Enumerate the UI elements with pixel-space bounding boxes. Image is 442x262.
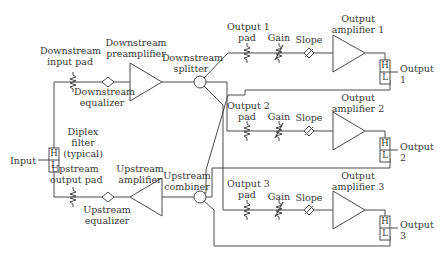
output3-label-line2: 3 <box>400 230 440 241</box>
output3-pad-label-line2: pad <box>227 189 267 200</box>
diplex-label-line1: Diplex <box>63 126 103 137</box>
output1-diplex-high-label: H <box>380 60 390 71</box>
output1-gain-label: Gain <box>264 32 294 43</box>
output1-label-line1: Output <box>400 63 440 74</box>
output-amplifier-1-label-line2: amplifier 1 <box>330 24 386 35</box>
upstream-amplifier-label-line2: amplifier <box>115 174 165 185</box>
output-amplifier-2-icon <box>333 112 365 150</box>
downstream-preamplifier-label-line1: Downstream <box>104 37 168 48</box>
output3-diplex-low-label: L <box>380 228 390 239</box>
upstream-equalizer-icon <box>102 192 114 202</box>
output2-pad-label-line2: pad <box>227 111 267 122</box>
downstream-equalizer-label-line1: Downstream <box>74 86 130 97</box>
downstream-input-pad-label-line2: input pad <box>40 56 100 67</box>
upstream-equalizer-label-line2: equalizer <box>82 215 132 226</box>
output2-diplex-high-label: H <box>380 138 390 149</box>
downstream-equalizer-label-line2: equalizer <box>74 97 130 108</box>
output3-gain-label: Gain <box>264 191 294 202</box>
output1-pad-label-line2: pad <box>227 32 267 43</box>
output3-pad-label-line1: Output 3 <box>227 178 267 189</box>
diplex-label-line3: (typical) <box>60 148 106 159</box>
diplex-label-line2: filter <box>63 137 103 148</box>
output3-label-line1: Output <box>400 219 440 230</box>
upstream-output-pad-label-line2: output pad <box>50 174 100 185</box>
downstream-splitter-label-line1: Downstream <box>162 52 220 63</box>
output2-diplex-low-label: L <box>380 150 390 161</box>
output3-slope-label: Slope <box>294 192 324 203</box>
input-diplex-high-label: H <box>49 148 59 159</box>
output-amplifier-3-label-line2: amplifier 3 <box>330 181 386 192</box>
upstream-combiner-label-line1: Upstream <box>162 170 212 181</box>
output1-diplex-low-label: L <box>380 72 390 83</box>
upstream-output-pad-label-line1: Upstream <box>50 163 100 174</box>
output1-slope-label: Slope <box>294 34 324 45</box>
output1-label-line2: 1 <box>400 74 440 85</box>
output2-label-line2: 2 <box>400 152 440 163</box>
output-amplifier-2-label-line2: amplifier 2 <box>330 103 386 114</box>
output-amplifier-1-label-line1: Output <box>330 13 386 24</box>
amplifier-block-diagram: H L H L H L H L Input Diplex filter (typ… <box>0 0 442 262</box>
output-amplifier-2-label-line1: Output <box>330 92 386 103</box>
downstream-preamplifier-label-line2: preamplifier <box>104 48 168 59</box>
output2-gain-label: Gain <box>264 111 294 122</box>
output2-slope-label: Slope <box>294 112 324 123</box>
output-amplifier-3-icon <box>333 191 365 229</box>
output2-pad-label-line1: Output 2 <box>227 100 267 111</box>
output2-label-line1: Output <box>400 141 440 152</box>
output-amplifier-1-icon <box>333 35 365 72</box>
output3-diplex-high-label: H <box>380 216 390 227</box>
upstream-equalizer-label-line1: Upstream <box>82 204 132 215</box>
input-label: Input <box>0 155 36 166</box>
downstream-input-pad-label-line1: Downstream <box>40 45 100 56</box>
output-amplifier-3-label-line1: Output <box>330 170 386 181</box>
downstream-splitter-label-line2: splitter <box>162 63 220 74</box>
output1-pad-label-line1: Output 1 <box>227 21 267 32</box>
upstream-combiner-label-line2: combiner <box>162 181 212 192</box>
upstream-amplifier-label-line1: Upstream <box>115 163 165 174</box>
